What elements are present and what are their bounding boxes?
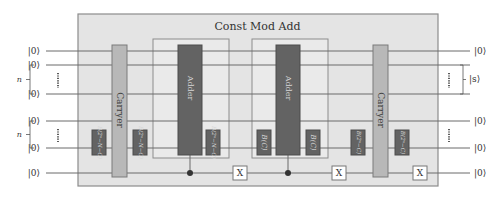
adder-label: Adder [186,75,195,101]
input-ket-label: |0⟩ [28,168,40,179]
carryer-label: Carryer [376,92,386,128]
output-ket-label: |0⟩ [474,143,486,154]
register-size-label: n [17,130,22,139]
control-dot-icon [285,170,291,176]
b-gate-label: B(2ⁿ−N−C) [211,125,217,159]
b-gate-label: B(2ⁿ−C) [400,130,406,154]
x-gate-label: X [417,168,424,178]
b-gate-label: B(2ⁿ−N−C) [138,125,144,159]
const-mod-add-title: Const Mod Add [0,20,503,33]
adder-label: Adder [284,75,293,101]
carryer-label: Carryer [115,92,125,128]
output-register-brace [460,65,466,94]
control-dot-icon [187,170,193,176]
b-gate-label: B(C) [309,134,317,151]
x-gate-label: X [237,168,244,178]
output-state-label: |s⟩ [469,74,480,85]
b-gate-label: B(2ⁿ−C) [356,130,362,154]
x-gate-label: X [336,168,343,178]
b-gate-label: B(2ⁿ−N−C) [97,125,103,159]
input-ket-label: |0⟩ [28,46,40,57]
output-ket-label: |0⟩ [474,168,486,179]
b-gate-label: B(C) [260,134,268,151]
output-ket-label: |0⟩ [474,116,486,127]
register-size-label: n [17,75,22,84]
output-ket-label: |0⟩ [474,46,486,57]
